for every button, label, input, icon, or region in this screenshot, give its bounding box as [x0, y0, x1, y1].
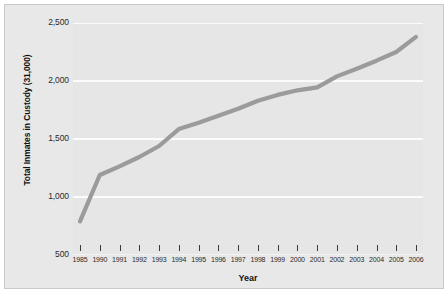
- x-axis-tick-mark: [278, 245, 279, 251]
- x-axis-tick-mark: [139, 245, 140, 251]
- x-axis-tick-mark: [218, 245, 219, 251]
- x-axis-tick-label: 1996: [211, 256, 226, 263]
- x-axis-tick-mark: [396, 245, 397, 251]
- x-axis-tick-mark: [377, 245, 378, 251]
- x-axis-tick-mark: [120, 245, 121, 251]
- y-axis-ticks: 2,5002,0001,5001,000500: [29, 23, 69, 255]
- x-axis-tick-label: 1985: [73, 256, 88, 263]
- x-axis-tick-mark: [258, 245, 259, 251]
- x-axis-tick-label: 1995: [191, 256, 206, 263]
- x-axis-tick-mark: [80, 245, 81, 251]
- x-axis-tick-label: 1997: [231, 256, 246, 263]
- data-line-series: [80, 37, 416, 222]
- plot-area: [73, 23, 423, 255]
- x-axis-line: [73, 254, 423, 255]
- x-axis-tick-label: 1999: [270, 256, 285, 263]
- x-axis-tick-labels: 1985199019911992199319941995199619971998…: [73, 256, 423, 268]
- x-axis-tick-label: 1994: [171, 256, 186, 263]
- x-axis-tick-mark: [100, 245, 101, 251]
- x-axis-tick-label: 1991: [112, 256, 127, 263]
- x-axis-tick-mark: [199, 245, 200, 251]
- x-axis-tick-mark: [337, 245, 338, 251]
- x-axis-tick-mark: [179, 245, 180, 251]
- x-axis-tick-mark: [357, 245, 358, 251]
- x-axis-title: Year: [73, 273, 423, 283]
- y-axis-tick-label: 500: [55, 250, 69, 259]
- x-axis-tick-marks: [73, 245, 423, 252]
- line-chart-svg: [73, 23, 423, 255]
- x-axis-tick-label: 1992: [132, 256, 147, 263]
- x-axis-tick-mark: [238, 245, 239, 251]
- x-axis-tick-label: 2005: [389, 256, 404, 263]
- x-axis-tick-mark: [297, 245, 298, 251]
- x-axis-tick-label: 1998: [251, 256, 266, 263]
- x-axis-tick-label: 1993: [152, 256, 167, 263]
- x-axis-tick-mark: [159, 245, 160, 251]
- chart-panel: Total Inmates in Custody (31,000) 2,5002…: [4, 4, 444, 289]
- y-axis-tick-label: 1,000: [48, 192, 69, 201]
- y-axis-tick-label: 1,500: [48, 134, 69, 143]
- x-axis-tick-label: 2006: [409, 256, 424, 263]
- x-axis-tick-mark: [416, 245, 417, 251]
- x-axis-tick-label: 2003: [349, 256, 364, 263]
- y-axis-tick-label: 2,000: [48, 76, 69, 85]
- x-axis-tick-label: 1990: [92, 256, 107, 263]
- chart-container: Total Inmates in Custody (31,000) 2,5002…: [0, 0, 448, 293]
- x-axis-tick-label: 2001: [310, 256, 325, 263]
- y-axis-tick-label: 2,500: [48, 18, 69, 27]
- x-axis-tick-mark: [317, 245, 318, 251]
- x-axis-tick-label: 2000: [290, 256, 305, 263]
- x-axis-tick-label: 2004: [369, 256, 384, 263]
- x-axis-tick-label: 2002: [330, 256, 345, 263]
